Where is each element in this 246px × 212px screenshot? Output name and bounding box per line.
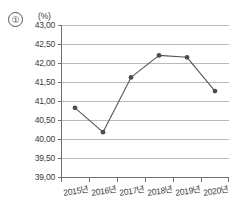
- y-axis-tick-label: 39,50: [35, 153, 55, 163]
- y-axis-tick-label: 40,50: [35, 115, 55, 125]
- y-axis-tick-label: 41,00: [35, 96, 55, 106]
- plot-area: 43,0042,5042,0041,5041,0040,5040,0039,50…: [61, 25, 229, 177]
- data-point-marker: [129, 75, 134, 80]
- data-point-marker: [185, 55, 190, 60]
- x-axis-tick: [61, 177, 62, 182]
- series-markers-group: [73, 53, 218, 135]
- y-axis-tick-label: 40,00: [35, 134, 55, 144]
- y-axis-tick-label: 42,00: [35, 58, 55, 68]
- y-axis-tick-label: 41,50: [35, 77, 55, 87]
- x-axis-tick-label: 2017년: [118, 182, 145, 197]
- x-axis-tick-label: 2018년: [146, 182, 173, 197]
- data-point-marker: [101, 130, 106, 135]
- y-axis-tick-label: 42,50: [35, 39, 55, 49]
- data-point-marker: [73, 105, 78, 110]
- x-axis-tick-label: 2016년: [90, 182, 117, 197]
- x-axis-tick: [145, 177, 146, 182]
- chart-figure: ① (%) 43,0042,5042,0041,5041,0040,5040,0…: [0, 0, 246, 212]
- x-axis-tick: [201, 177, 202, 182]
- y-axis-tick-label: 39,00: [35, 172, 55, 182]
- x-axis-tick: [173, 177, 174, 182]
- data-point-marker: [213, 89, 218, 94]
- x-axis-tick-label: 2019년: [174, 182, 201, 197]
- x-axis-tick: [228, 177, 229, 182]
- item-number-badge: ①: [8, 12, 23, 27]
- series-line: [75, 55, 215, 132]
- y-axis-tick-label: 43,00: [35, 20, 55, 30]
- x-axis-tick-label: 2015년: [62, 182, 89, 197]
- data-point-marker: [157, 53, 162, 58]
- line-series-svg: [61, 25, 229, 177]
- x-axis-tick: [89, 177, 90, 182]
- x-axis-tick: [117, 177, 118, 182]
- x-axis-tick-label: 2020년: [202, 182, 229, 197]
